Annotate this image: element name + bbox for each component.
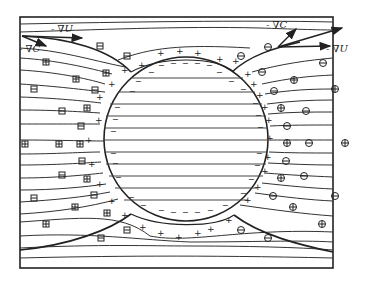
svg-text:+: + [157,48,165,58]
svg-text:+: + [121,65,129,75]
svg-text:+: + [175,232,183,242]
svg-text:−: − [112,159,119,168]
svg-text:−: − [128,193,135,202]
svg-text:−: − [255,111,262,120]
grad-u-label-right: - ∇U [326,44,348,54]
svg-text:+: + [139,222,147,232]
svg-text:+: + [261,166,269,176]
svg-text:−: − [135,77,142,86]
svg-text:+: + [232,56,240,66]
svg-text:−: − [110,127,117,136]
grad-c-label-left: - ∇C [19,44,40,54]
svg-text:−: − [148,68,155,77]
grad-u-arrow-left [22,36,82,38]
svg-text:+: + [261,102,269,112]
flow-diagram: −−−−− −− −− − −−− −−− −−−−−−−− −−−−−−−− … [0,0,367,281]
grad-u-arrow-right [278,46,330,47]
grad-c-label-right: - ∇C [266,20,287,30]
svg-text:+: + [264,152,272,162]
svg-text:+: + [96,179,104,189]
svg-text:−: − [110,149,117,158]
svg-text:+: + [250,79,258,89]
svg-text:−: − [182,59,189,68]
svg-text:−: − [115,173,122,182]
svg-text:+: + [244,69,252,79]
svg-text:−: − [158,206,165,215]
separatrix-top-left [22,36,131,72]
svg-text:+: + [108,196,116,206]
svg-text:+: + [225,215,233,225]
svg-text:+: + [88,159,96,169]
svg-text:−: − [114,103,121,112]
svg-text:+: + [157,228,165,238]
svg-text:+: + [121,210,129,220]
svg-text:+: + [244,195,252,205]
svg-text:−: − [158,61,165,70]
svg-text:+: + [254,182,262,192]
svg-text:+: + [266,133,274,143]
svg-text:−: − [252,99,259,108]
svg-text:−: − [140,201,147,210]
svg-text:−: − [228,77,235,86]
svg-text:−: − [206,61,213,70]
svg-text:−: − [257,123,264,132]
svg-text:−: − [182,208,189,217]
svg-text:−: − [194,59,201,68]
svg-text:+: + [265,115,273,125]
svg-text:−: − [207,206,214,215]
svg-text:−: − [194,208,201,217]
svg-text:+: + [207,224,215,234]
svg-text:+: + [176,46,184,56]
svg-text:−: − [256,149,263,158]
svg-text:+: + [216,54,224,64]
svg-text:−: − [112,115,119,124]
svg-text:+: + [194,228,202,238]
svg-text:+: + [256,90,264,100]
svg-text:+: + [108,79,116,89]
svg-text:+: + [138,60,146,70]
svg-text:−: − [129,87,136,96]
svg-text:+: + [194,48,202,58]
svg-text:−: − [170,59,177,68]
svg-text:−: − [170,208,177,217]
svg-text:+: + [85,135,93,145]
grad-u-label-left: - ∇U [51,24,73,34]
svg-text:−: − [222,201,229,210]
separatrix-bottom-left [20,214,131,250]
svg-text:−: − [216,68,223,77]
svg-text:−: − [240,85,247,94]
svg-text:−: − [254,161,261,170]
svg-text:+: + [95,115,103,125]
